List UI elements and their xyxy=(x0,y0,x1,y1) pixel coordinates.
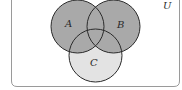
venn-diagram: A B C U xyxy=(0,0,182,90)
set-b-label: B xyxy=(116,19,124,30)
set-c-label: C xyxy=(90,57,98,68)
venn-svg: A B C U xyxy=(0,0,182,90)
set-a-label: A xyxy=(64,18,72,29)
universe-label: U xyxy=(163,0,172,11)
